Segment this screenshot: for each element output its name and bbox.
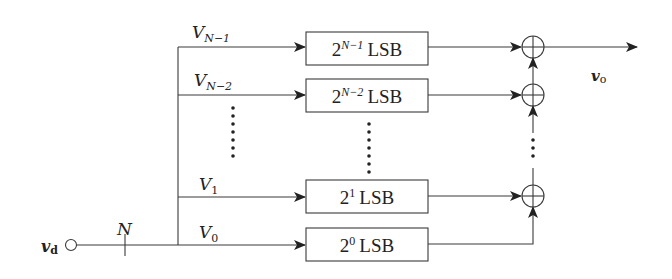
- weight-box-0: 20LSB: [306, 228, 428, 261]
- branch-label-1: V1: [199, 174, 218, 197]
- adder-second: [522, 84, 544, 106]
- input-terminal: vd: [41, 237, 77, 257]
- ellipsis-left: [231, 106, 235, 158]
- branch-label-n1: VN−1: [192, 22, 230, 45]
- svg-text:20LSB: 20LSB: [340, 234, 394, 256]
- branch-label-n2: VN−2: [194, 70, 232, 93]
- box-output-0: [428, 207, 533, 244]
- adder-bottom: [522, 185, 544, 207]
- ellipsis-middle: [367, 122, 371, 174]
- output-label: vo: [591, 67, 607, 86]
- svg-text:21LSB: 21LSB: [340, 186, 394, 208]
- bus-width-label: N: [116, 219, 133, 239]
- input-label-sub: d: [50, 244, 58, 257]
- adder-top: [522, 36, 544, 58]
- weight-box-n1: 2N−1LSB: [306, 32, 428, 65]
- weight-box-n2: 2N−2LSB: [306, 79, 428, 112]
- ellipsis-right: [531, 138, 535, 158]
- svg-text:vd: vd: [41, 237, 58, 257]
- weight-box-1: 21LSB: [306, 180, 428, 213]
- dac-block-diagram: vd N VN−1 VN−2 V1 V0 2N−1LSB: [0, 0, 672, 279]
- branch-label-0: V0: [199, 222, 218, 245]
